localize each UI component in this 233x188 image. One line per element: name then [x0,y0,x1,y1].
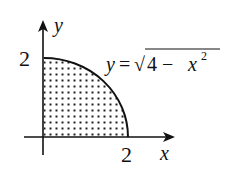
curve-equation-label: y = √ 4 − x 2 [104,49,220,76]
y-tick-label: 2 [19,46,30,71]
equation-radicand-x: x [187,53,197,75]
equation-radicand-4: 4 − [147,53,173,75]
x-tick-label: 2 [121,142,132,167]
y-axis-label: y [52,14,63,37]
sqrt-symbol-icon: √ [134,53,145,75]
equation-equals: = [119,53,130,75]
quarter-circle-diagram: y 2 2 x y = √ 4 − x 2 [0,0,233,188]
equation-lhs: y [104,53,115,76]
x-axis-label: x [159,142,169,164]
equation-exponent: 2 [201,49,207,63]
shaded-region [44,58,128,137]
